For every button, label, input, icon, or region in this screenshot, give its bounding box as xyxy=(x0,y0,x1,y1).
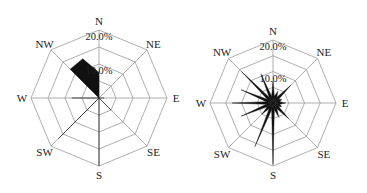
wind-rose-1: 10.0%20.0%NNEESESSWWNW xyxy=(17,15,180,181)
direction-label-nw: NW xyxy=(213,46,232,58)
direction-label-s: S xyxy=(96,169,102,181)
direction-label-sw: SW xyxy=(36,146,53,158)
direction-label-ne: NE xyxy=(146,38,161,50)
direction-label-n: N xyxy=(269,25,277,37)
ring-label: 20.0% xyxy=(259,41,286,52)
wind-rose-2: 10.0%20.0%NNEESESSWWNW xyxy=(196,25,349,181)
direction-label-se: SE xyxy=(147,146,160,158)
ring-label: 10.0% xyxy=(85,65,112,76)
wind-rose-figure: 10.0%20.0%NNEESESSWWNW10.0%20.0%NNEESESS… xyxy=(0,0,367,193)
direction-label-w: W xyxy=(17,92,28,104)
direction-label-ne: NE xyxy=(317,46,332,58)
petal-w xyxy=(232,102,273,105)
direction-label-e: E xyxy=(342,97,349,109)
direction-label-w: W xyxy=(196,97,207,109)
direction-label-sw: SW xyxy=(214,148,231,160)
direction-label-n: N xyxy=(95,15,103,27)
direction-label-nw: NW xyxy=(35,38,54,50)
direction-label-e: E xyxy=(173,92,180,104)
ring-label: 10.0% xyxy=(259,73,286,84)
direction-label-s: S xyxy=(270,169,276,181)
ring-label: 20.0% xyxy=(85,31,112,42)
direction-label-se: SE xyxy=(317,148,330,160)
petal-s xyxy=(272,103,275,164)
